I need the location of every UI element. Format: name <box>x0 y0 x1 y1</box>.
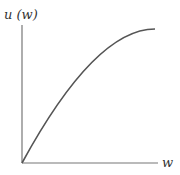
utility-plot: u (w) w <box>0 0 180 175</box>
utility-curve <box>22 29 155 163</box>
y-axis-label: u (w) <box>4 7 38 22</box>
x-axis-label: w <box>162 155 173 170</box>
